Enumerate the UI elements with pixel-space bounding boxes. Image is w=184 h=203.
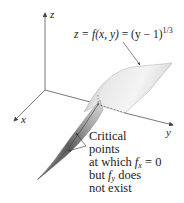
annotation-line-3-pre: at which	[89, 155, 135, 169]
equation-pointer-arrow	[123, 42, 140, 65]
equation-lhs: z =	[74, 28, 92, 40]
equation-args: (x, y)	[95, 28, 119, 40]
equation-exponent: 1/3	[162, 26, 172, 35]
critical-points-annotation: Critical points at which fx = 0 but fy d…	[89, 130, 161, 195]
annotation-line-5: not exist	[89, 182, 161, 195]
surface-equation: z = f(x, y) = (y − 1)1/3	[74, 29, 173, 41]
x-axis-label: x	[21, 114, 26, 125]
annotation-line-4-post: does	[115, 168, 141, 182]
z-axis-label: z	[50, 9, 54, 20]
y-axis-back	[45, 90, 94, 103]
annotation-line-3-post: = 0	[142, 155, 162, 169]
equation-mid: = (y − 1)	[119, 28, 163, 40]
y-axis-front	[125, 113, 173, 125]
annotation-line-4-pre: but	[89, 168, 108, 182]
y-axis-label: y	[166, 127, 171, 138]
x-axis	[14, 90, 45, 121]
